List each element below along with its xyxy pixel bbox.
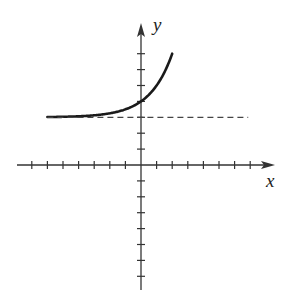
graph [0,0,301,294]
y-axis-label: y [153,14,161,36]
series [47,54,248,118]
axes [17,23,275,290]
exponential-curve [47,54,172,117]
x-axis-label: x [266,170,274,192]
